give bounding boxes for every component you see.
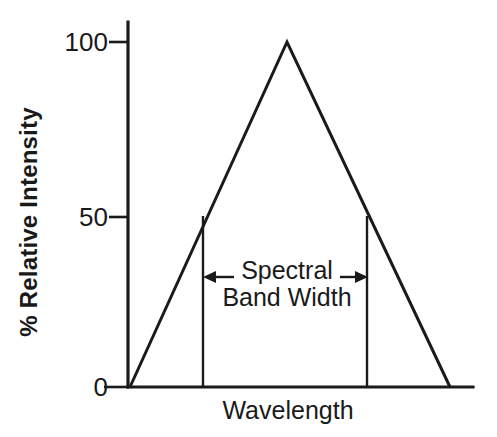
y-axis-title: % Relative Intensity	[17, 87, 41, 357]
spectral-profile-curve	[130, 42, 450, 387]
x-axis-title: Wavelength	[168, 398, 408, 423]
y-tick-label-100: 100	[38, 29, 108, 55]
band-width-annotation-line-1: Spectral	[207, 258, 367, 284]
band-width-annotation-line-2: Band Width	[207, 285, 367, 311]
y-tick-label-0: 0	[38, 374, 108, 400]
spectral-band-width-figure: 100 50 0 % Relative Intensity Wavelength…	[0, 0, 497, 437]
y-axis-title-container: % Relative Intensity	[17, 87, 47, 357]
y-tick-label-50: 50	[38, 204, 108, 230]
band-width-annotation: Spectral Band Width	[207, 258, 367, 310]
